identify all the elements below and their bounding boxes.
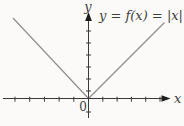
absolute-value-graph-figure: y x 0 y = f(x) = |x|	[0, 0, 184, 126]
graph-canvas: y x 0 y = f(x) = |x|	[0, 0, 184, 126]
origin-label: 0	[79, 100, 87, 114]
y-axis-label: y	[83, 0, 92, 14]
x-axis-label: x	[174, 91, 182, 106]
equation-label: y = f(x) = |x|	[98, 8, 183, 23]
